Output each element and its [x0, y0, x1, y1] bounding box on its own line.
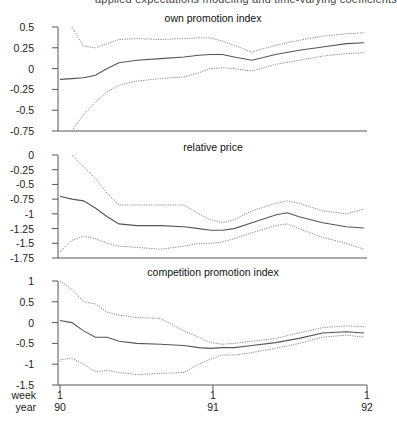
y-tick-label: -0.25 — [10, 83, 34, 95]
x-tick-year: 90 — [54, 401, 66, 413]
y-tick-label: 1 — [28, 275, 34, 287]
x-tick-week: 1 — [364, 389, 370, 401]
confidence-band-line — [72, 27, 364, 52]
confidence-band-line — [60, 335, 364, 375]
panel-1: own promotion index0.50.250-0.25-0.5-0.7… — [10, 12, 367, 137]
estimate-line — [60, 43, 364, 80]
y-tick-label: 0.5 — [19, 296, 34, 308]
y-tick-label: -0.75 — [10, 125, 34, 137]
y-tick-label: -1.75 — [10, 252, 34, 264]
x-tick-week: 1 — [210, 389, 216, 401]
panel-title: own promotion index — [165, 12, 263, 24]
panel-2: relative price0-0.25-0.5-0.75-1-1.25-1.5… — [10, 141, 367, 264]
y-tick-label: 0.25 — [14, 42, 35, 54]
panel-3: competition promotion index10.50-0.5-1-1… — [16, 266, 367, 391]
x-tick-year: 91 — [207, 401, 219, 413]
panel-title: competition promotion index — [147, 266, 279, 278]
y-tick-label: -0.5 — [16, 337, 34, 349]
confidence-band-line — [72, 155, 364, 223]
x-tick-year: 92 — [361, 401, 373, 413]
x-row-label-week: week — [10, 389, 36, 401]
confidence-band-line — [60, 281, 364, 344]
y-tick-label: -1 — [25, 208, 34, 220]
y-tick-label: 0 — [28, 63, 34, 75]
y-tick-label: -0.75 — [10, 193, 34, 205]
confidence-band-line — [60, 224, 364, 252]
y-tick-label: -0.5 — [16, 104, 34, 116]
y-tick-label: 0.5 — [19, 21, 34, 33]
y-tick-label: 0 — [28, 149, 34, 161]
y-tick-label: -1.5 — [16, 237, 34, 249]
panel-title: relative price — [183, 141, 243, 153]
x-axis-labels: weekyear190191192 — [10, 385, 373, 413]
y-tick-label: -1 — [25, 358, 34, 370]
y-tick-label: -1.25 — [10, 223, 34, 235]
y-tick-label: 0 — [28, 317, 34, 329]
estimate-line — [60, 321, 364, 349]
estimate-line — [60, 196, 364, 230]
y-tick-label: -0.5 — [16, 178, 34, 190]
x-row-label-year: year — [16, 401, 37, 413]
y-tick-label: -0.25 — [10, 164, 34, 176]
x-tick-week: 1 — [57, 389, 63, 401]
